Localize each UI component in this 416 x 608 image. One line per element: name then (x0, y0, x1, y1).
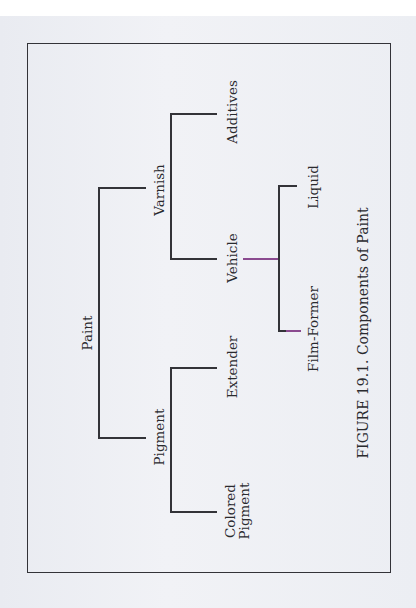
node-paint: Paint (80, 316, 94, 351)
node-liquid: Liquid (306, 165, 320, 209)
vehicle-to-film-former-connector (278, 330, 286, 332)
figure-frame (27, 43, 391, 573)
node-colored-pigment: Colored Pigment (223, 483, 251, 540)
varnish-bracket-vertical (170, 113, 172, 259)
node-varnish: Varnish (152, 164, 166, 216)
paint-bracket-vertical (98, 187, 100, 439)
vehicle-stem-connector (243, 258, 279, 260)
vehicle-bracket-vertical (278, 185, 280, 331)
node-pigment: Pigment (152, 409, 166, 466)
film-former-connector-tip (286, 330, 301, 332)
top-margin (0, 0, 416, 16)
varnish-to-vehicle-connector (170, 258, 217, 260)
figure-caption: FIGURE 19.1. Components of Paint (355, 207, 371, 458)
node-additives: Additives (225, 80, 239, 144)
node-extender: Extender (225, 336, 239, 399)
pigment-to-extender-connector (170, 367, 217, 369)
node-vehicle: Vehicle (225, 233, 239, 282)
node-film-former: Film-Former (306, 286, 320, 372)
paint-to-pigment-connector (98, 437, 146, 439)
paint-to-varnish-connector (98, 187, 146, 189)
pigment-to-colored-pigment-connector (170, 511, 217, 513)
varnish-to-additives-connector (170, 113, 217, 115)
pigment-bracket-vertical (170, 367, 172, 512)
vehicle-to-liquid-connector (278, 185, 297, 187)
